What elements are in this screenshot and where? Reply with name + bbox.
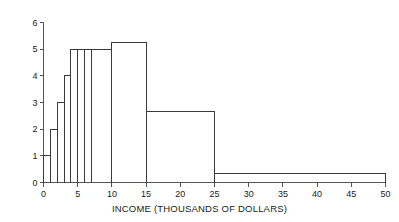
histogram-bar-25-50 [215,173,386,182]
histogram-bar-0-1 [44,156,51,183]
histogram-bar-4-5 [71,49,78,182]
x-tick-label-15: 15 [141,189,151,199]
x-tick-label-30: 30 [244,189,254,199]
y-tick-label-5: 5 [27,44,38,54]
histogram-bar-3-4 [64,76,71,183]
histogram-bar-5-6 [78,49,85,182]
x-tick-label-40: 40 [312,189,322,199]
bars-group [44,43,386,183]
histogram-bar-1-2 [50,129,57,182]
histogram-bar-2-3 [57,103,64,183]
x-tick-label-25: 25 [209,189,219,199]
y-tick-label-1: 1 [27,151,38,161]
histogram-plot-svg [0,0,399,222]
x-tick-label-5: 5 [75,189,80,199]
x-tick-label-50: 50 [380,189,390,199]
histogram-bar-6-7 [85,49,92,182]
x-tick-label-35: 35 [278,189,288,199]
histogram-bar-7-10 [91,49,112,182]
y-tick-label-3: 3 [27,98,38,108]
x-tick-label-0: 0 [41,189,46,199]
histogram-bar-10-15 [112,43,146,183]
x-tick-label-20: 20 [175,189,185,199]
histogram-figure: 051015202530354045500123456 INCOME (THOU… [0,0,399,222]
x-axis-label: INCOME (THOUSANDS OF DOLLARS) [0,203,399,214]
histogram-bar-15-25 [146,112,214,183]
y-tick-label-2: 2 [27,124,38,134]
x-tick-label-10: 10 [107,189,117,199]
y-tick-label-0: 0 [27,178,38,188]
y-tick-label-4: 4 [27,71,38,81]
y-tick-label-6: 6 [27,18,38,28]
x-tick-label-45: 45 [346,189,356,199]
